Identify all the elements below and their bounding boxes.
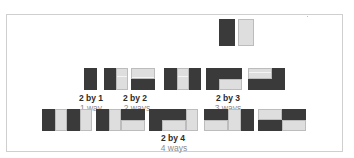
light-domino — [121, 120, 145, 131]
light-domino — [109, 109, 121, 131]
dark-domino — [84, 68, 97, 90]
dark-domino — [96, 109, 109, 131]
light-domino — [219, 79, 242, 90]
dark-domino — [121, 109, 145, 120]
label-2by3: 2 by 3 — [215, 93, 241, 103]
dark-domino — [164, 68, 177, 90]
label-2by1: 2 by 1 — [78, 93, 104, 103]
light-domino — [80, 109, 92, 131]
light-domino — [204, 120, 228, 131]
light-domino — [228, 109, 241, 131]
light-domino — [238, 19, 254, 46]
dark-domino — [272, 68, 285, 90]
dark-domino — [219, 68, 242, 79]
light-domino — [186, 109, 198, 131]
highlight — [249, 72, 271, 73]
dark-domino — [189, 68, 201, 90]
highlight — [132, 77, 154, 78]
light-domino — [258, 109, 282, 120]
light-domino — [282, 120, 306, 131]
dark-domino — [149, 109, 162, 131]
highlight — [178, 76, 188, 77]
speck — [307, 16, 308, 17]
light-domino — [248, 68, 272, 79]
dark-domino — [248, 79, 272, 90]
dark-domino — [67, 109, 80, 131]
light-domino — [177, 68, 189, 90]
dark-domino — [241, 109, 254, 131]
dark-domino — [42, 109, 55, 131]
dark-domino — [204, 109, 228, 120]
dark-domino — [206, 68, 219, 90]
label-2by2: 2 by 2 — [122, 93, 148, 103]
dark-domino — [104, 68, 116, 90]
count-2by4: 4 ways — [159, 143, 189, 153]
light-domino — [116, 68, 128, 90]
light-domino — [55, 109, 67, 131]
dark-domino — [131, 79, 155, 90]
light-domino — [162, 120, 186, 131]
dark-domino — [162, 109, 186, 120]
dark-domino — [282, 109, 306, 120]
label-2by4: 2 by 4 — [160, 133, 186, 143]
dark-domino — [258, 120, 282, 131]
dark-domino — [219, 19, 235, 46]
highlight — [117, 76, 127, 77]
